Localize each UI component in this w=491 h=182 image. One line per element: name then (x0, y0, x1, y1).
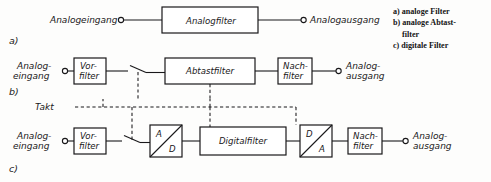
row-b-input-label-2: eingang (13, 71, 50, 81)
block-vorfilter-b-label-2: filter (79, 71, 100, 81)
figure-root: Analogeingang Analogfilter Analogausgang… (0, 0, 491, 182)
row-c-output-terminal (403, 138, 408, 143)
legend: a) analoge Filter b) analoge Abtast- fil… (393, 6, 489, 52)
block-vorfilter-c-label-2: filter (79, 141, 100, 151)
row-c-output-label-1: Analog- (412, 131, 447, 141)
block-nachfilter-b-label-2: filter (283, 71, 304, 81)
row-b-input-label-1: Analog- (16, 61, 51, 71)
block-nachfilter-b-label-1: Nach- (283, 61, 308, 71)
block-vorfilter-b-label-1: Vor- (80, 61, 97, 71)
row-c-input-label-2: eingang (13, 141, 50, 151)
row-b-output-terminal (336, 68, 341, 73)
clock-label: Takt (35, 102, 54, 112)
row-a-group: Analogeingang Analogfilter Analogausgang… (9, 7, 380, 46)
row-a-input-label: Analogeingang (49, 15, 118, 25)
row-a-output-terminal (301, 17, 306, 22)
legend-item-c: c) digitale Filter (393, 40, 489, 51)
row-c-input-terminal (62, 138, 67, 143)
block-digitalfilter-label: Digitalfilter (219, 136, 267, 146)
block-nachfilter-c-label-2: filter (353, 141, 374, 151)
row-a-output-label: Analogausgang (309, 15, 380, 25)
block-analogfilter-label: Analogfilter (185, 16, 236, 26)
block-da-converter-label-top: D (306, 129, 313, 139)
row-b-output-label-1: Analog- (345, 61, 380, 71)
legend-item-b-continuation: filter (393, 29, 489, 40)
block-ad-converter-label-top: A (155, 129, 162, 139)
row-a-input-terminal (118, 17, 123, 22)
block-vorfilter-c-label-1: Vor- (80, 131, 97, 141)
row-c-output-label-2: ausgang (413, 141, 452, 151)
block-nachfilter-c-label-1: Nach- (353, 131, 378, 141)
row-c-group: Takt Vor- filter (9, 99, 452, 174)
legend-item-b: b) analoge Abtast- (393, 17, 489, 28)
row-b-group: Vor- filter Abtastfilter Nach- filter (9, 58, 385, 99)
row-b-input-terminal (62, 68, 67, 73)
block-abtastfilter-label: Abtastfilter (185, 66, 234, 76)
block-ad-converter-label-bottom: D (169, 144, 176, 154)
legend-item-a: a) analoge Filter (393, 6, 489, 17)
row-label-c: c) (9, 163, 18, 174)
row-label-a: a) (9, 35, 19, 46)
row-label-b: b) (9, 86, 19, 97)
block-da-converter-label-bottom: A (318, 144, 325, 154)
row-c-input-label-1: Analog- (16, 131, 51, 141)
row-b-switch-blade[interactable] (130, 66, 146, 73)
row-b-output-label-2: ausgang (346, 71, 385, 81)
